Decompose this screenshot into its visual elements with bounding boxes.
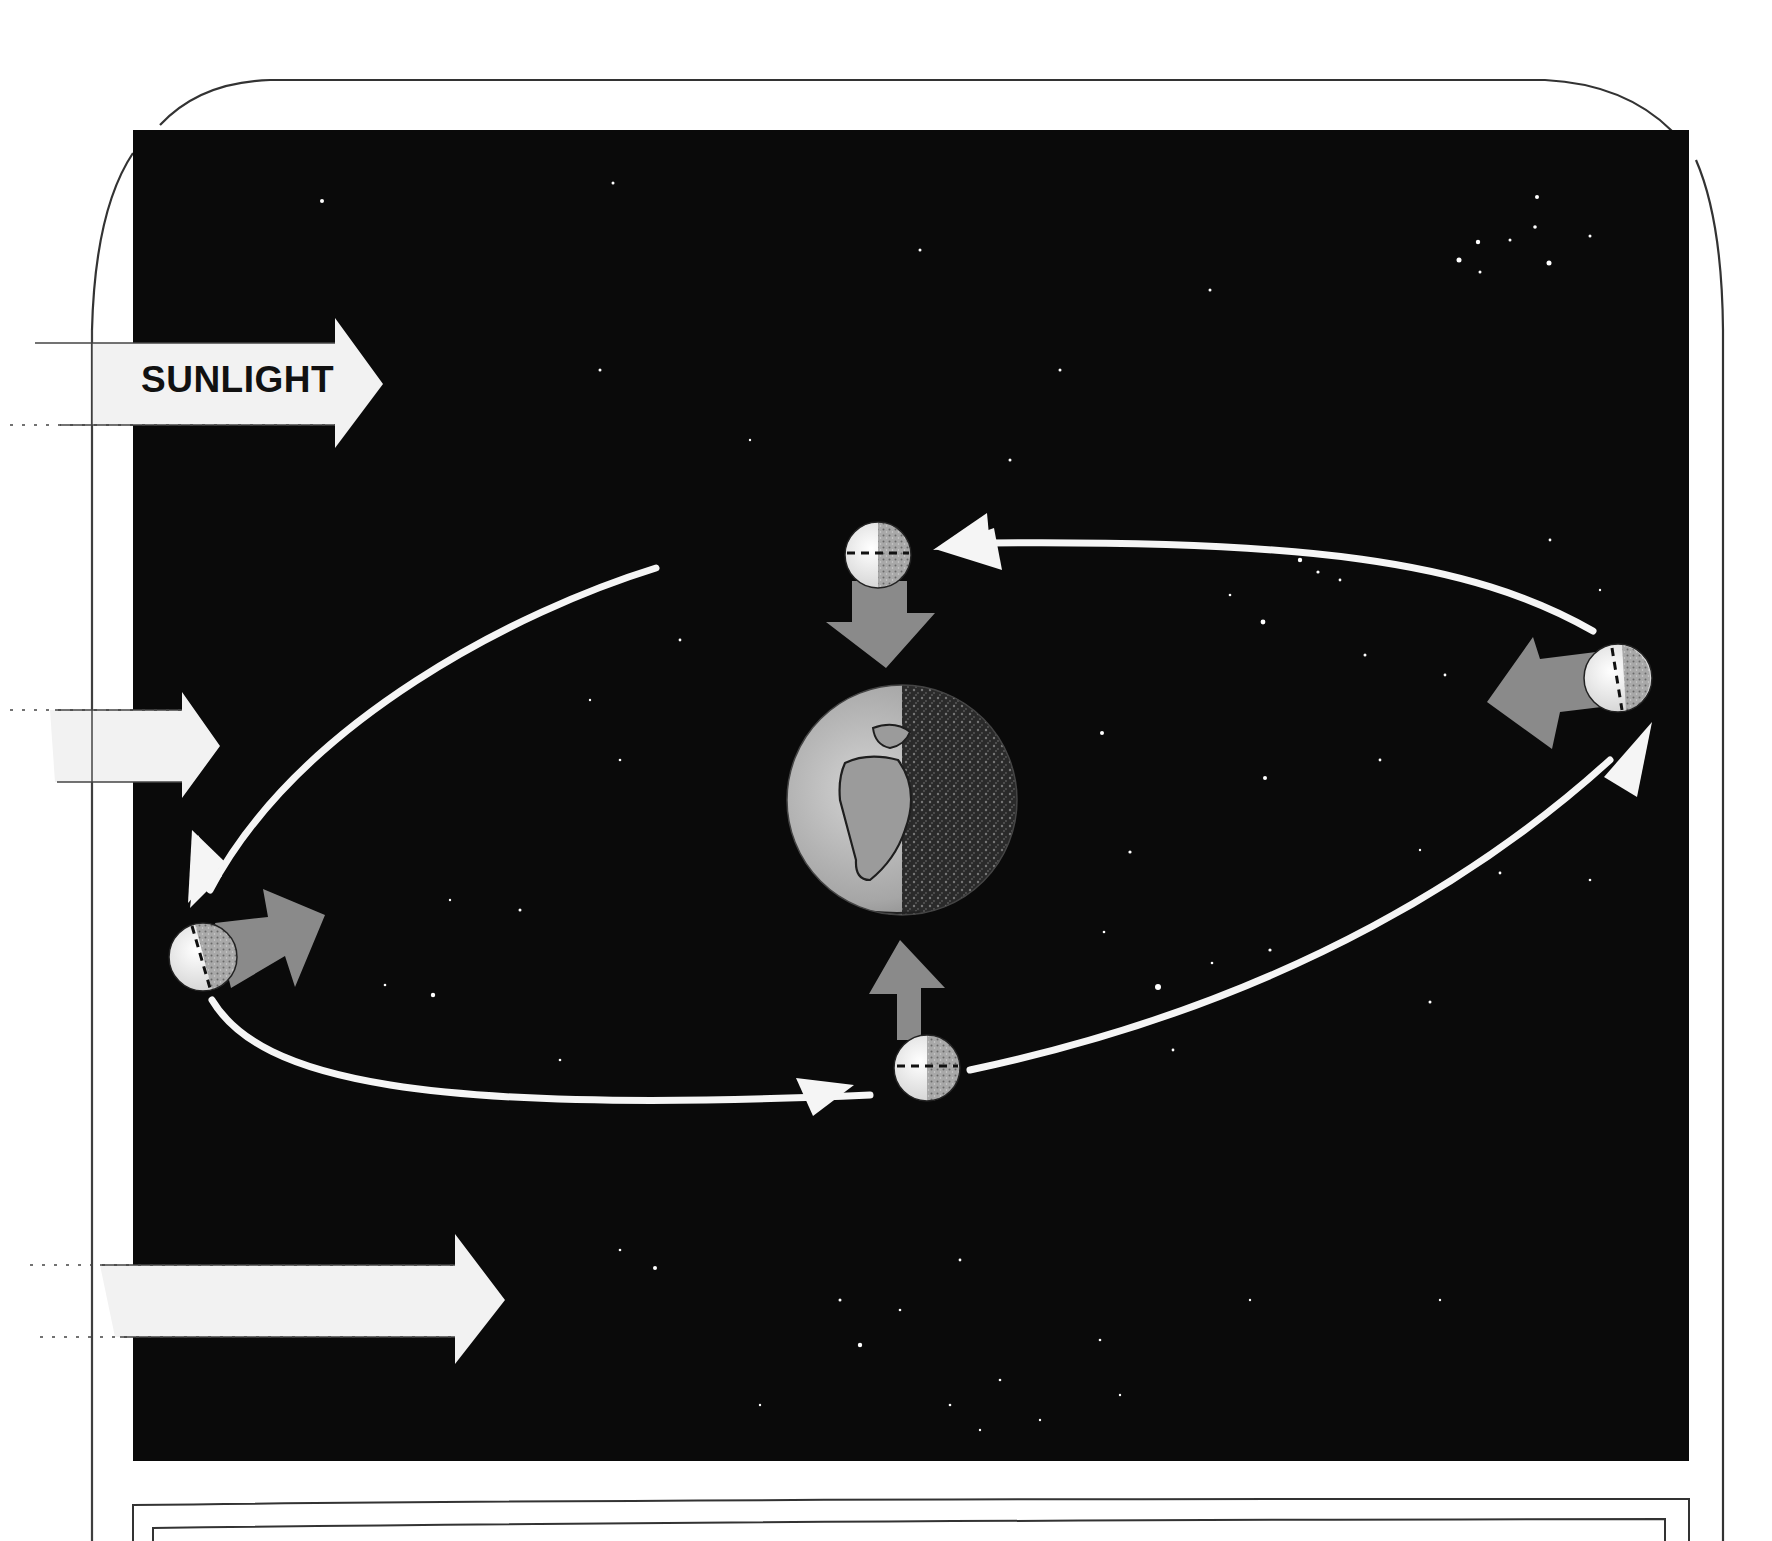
moon-top — [845, 522, 911, 588]
moon-right — [1584, 644, 1652, 712]
moon-orbit-diagram: SUNLIGHT — [0, 0, 1772, 1541]
moon-left — [169, 923, 238, 991]
sunlight-label: SUNLIGHT — [141, 354, 361, 406]
caption-box-frame — [133, 1499, 1689, 1541]
moon-bottom — [894, 1035, 960, 1101]
